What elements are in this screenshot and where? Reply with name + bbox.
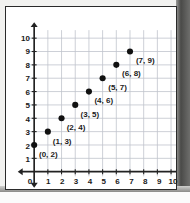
y-axis-tick-label: 9 [26, 48, 30, 56]
x-axis-tick-label: 2 [60, 178, 64, 186]
page-shadow-right [176, 0, 190, 196]
data-point-marker [72, 102, 78, 108]
x-axis-tick-label: 9 [157, 178, 161, 186]
y-axis-tick-label: 10 [21, 35, 30, 43]
data-point-label: (4, 6) [94, 96, 113, 105]
y-axis-tick-label: 4 [26, 116, 30, 124]
data-point-marker [45, 129, 51, 135]
y-axis-tick-label: 8 [26, 62, 30, 70]
x-axis-tick-label: 7 [129, 178, 133, 186]
x-axis-tick-label: 6 [115, 178, 119, 186]
data-point-marker [86, 89, 92, 95]
y-axis-tick-label: 3 [26, 129, 30, 137]
scatter-plot-svg [6, 7, 176, 189]
data-point-marker [100, 75, 106, 81]
data-point-label: (3, 5) [81, 110, 100, 119]
data-point-marker [113, 62, 119, 68]
data-point-label: (6, 8) [122, 69, 141, 78]
x-axis-tick-label: 8 [143, 178, 147, 186]
data-point-label: (2, 4) [67, 123, 86, 132]
data-point-marker [127, 48, 133, 54]
x-axis-tick-label: 5 [102, 178, 106, 186]
y-axis-tick-label: 2 [26, 143, 30, 151]
data-point-marker [58, 115, 64, 121]
data-point-label: (7, 9) [136, 56, 155, 65]
coordinate-plane-card: 12345678910012345678910 (0, 2)(1, 3)(2, … [5, 6, 177, 190]
x-axis-tick-label: 1 [46, 178, 50, 186]
y-axis-tick-label: 1 [26, 156, 30, 164]
y-axis-tick-label: 5 [26, 102, 30, 110]
scanned-page: 12345678910012345678910 (0, 2)(1, 3)(2, … [0, 0, 190, 203]
data-point-label: (1, 3) [53, 137, 72, 146]
data-point-marker [31, 142, 37, 148]
page-margin-bottom [0, 192, 190, 203]
x-axis-tick-label: 3 [74, 178, 78, 186]
data-point-markers [31, 48, 133, 148]
y-axis-tick-label: 6 [26, 89, 30, 97]
x-axis-tick-label: 4 [88, 178, 92, 186]
y-axis-tick-label: 7 [26, 75, 30, 83]
data-point-label: (0, 2) [39, 150, 58, 159]
data-point-label: (5, 7) [108, 83, 127, 92]
origin-tick-label: 0 [28, 178, 32, 186]
x-axis-tick-label: 10 [169, 178, 178, 186]
